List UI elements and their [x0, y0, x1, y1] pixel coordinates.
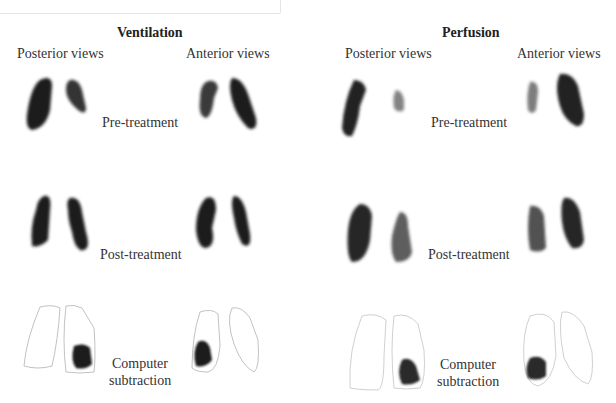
vent-pre-anterior-lungs [200, 78, 257, 129]
vent-post-posterior-lungs [32, 196, 89, 250]
lung-scan-images [0, 0, 616, 403]
perf-pre-posterior-lungs [342, 80, 404, 136]
vent-post-anterior-lungs [196, 196, 250, 248]
perf-sub-anterior-defect [526, 357, 546, 380]
vent-sub-posterior-defect [72, 344, 92, 368]
perf-sub-posterior-defect [399, 359, 420, 385]
vent-sub-anterior-defect [194, 341, 212, 367]
perf-post-anterior-lungs [528, 198, 584, 252]
vent-pre-posterior-lungs [27, 78, 86, 130]
perf-post-posterior-lungs [348, 204, 413, 262]
perf-pre-anterior-lungs [527, 74, 584, 127]
